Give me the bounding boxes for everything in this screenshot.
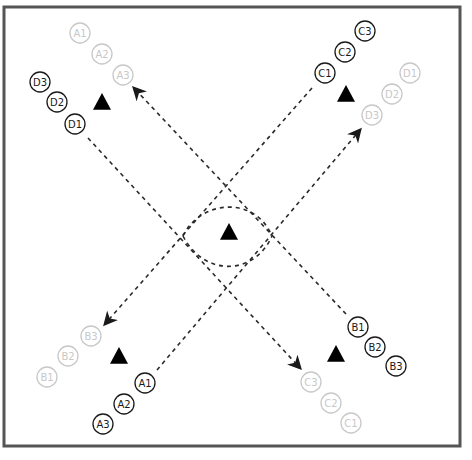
player-label: A2: [117, 399, 130, 410]
player-label: A3: [96, 419, 109, 430]
player-label: A2: [95, 49, 108, 60]
player-label: D1: [68, 119, 82, 130]
player-label: B2: [61, 351, 74, 362]
player-marker-a2-destination: A2: [92, 44, 112, 64]
players-layer: A1A2A3D3D2D1C3C2C1D1D2D3B3B2B1A1A2A3B1B2…: [30, 21, 420, 434]
player-label: B1: [351, 322, 364, 333]
player-marker-a1-start: A1: [135, 373, 155, 393]
run-a-to-top-left-arrow: [157, 130, 360, 370]
player-label: D3: [365, 110, 379, 121]
player-marker-c2-destination: C2: [321, 393, 341, 413]
cones-layer: [93, 85, 355, 364]
player-label: C1: [344, 418, 357, 429]
player-label: B2: [368, 342, 381, 353]
player-marker-d2-start: D2: [47, 92, 67, 112]
player-marker-c2-start: C2: [335, 42, 355, 62]
drill-diagram: A1A2A3D3D2D1C3C2C1D1D2D3B3B2B1A1A2A3B1B2…: [0, 0, 472, 460]
player-marker-c1-start: C1: [315, 63, 335, 83]
cone-top-left-triangle-icon: [93, 93, 111, 110]
player-marker-a2-start: A2: [114, 394, 134, 414]
player-label: A1: [73, 28, 86, 39]
player-marker-c1-destination: C1: [341, 413, 361, 433]
player-marker-a3-start: A3: [93, 414, 113, 434]
player-marker-d1-destination: D1: [400, 63, 420, 83]
player-label: A3: [116, 70, 129, 81]
player-marker-b1-start: B1: [348, 317, 368, 337]
player-label: C3: [358, 26, 371, 37]
player-label: C3: [304, 377, 317, 388]
diagram-canvas: A1A2A3D3D2D1C3C2C1D1D2D3B3B2B1A1A2A3B1B2…: [0, 0, 472, 460]
run-b-to-top-left-arrow: [134, 88, 346, 314]
player-label: B3: [389, 361, 402, 372]
player-marker-b3-start: B3: [386, 356, 406, 376]
player-label: D1: [403, 68, 417, 79]
player-label: B1: [40, 372, 53, 383]
player-label: D3: [33, 77, 47, 88]
run-d-to-bottom-right-arrow: [88, 138, 300, 368]
player-marker-d3-start: D3: [30, 72, 50, 92]
player-marker-b2-start: B2: [365, 337, 385, 357]
player-marker-d3-destination: D3: [362, 105, 382, 125]
player-marker-a3-destination: A3: [113, 65, 133, 85]
player-label: D2: [50, 97, 64, 108]
player-marker-c3-start: C3: [355, 21, 375, 41]
runs-layer: [88, 88, 360, 370]
player-label: C1: [318, 68, 331, 79]
player-label: A1: [138, 378, 151, 389]
player-label: D2: [385, 89, 399, 100]
cone-bottom-right-triangle-icon: [327, 345, 345, 362]
player-marker-b2-destination: B2: [58, 346, 78, 366]
player-label: B3: [84, 331, 97, 342]
cone-bottom-left-triangle-icon: [110, 347, 128, 364]
field-border: [4, 7, 460, 446]
run-c-to-bottom-left-arrow: [105, 88, 312, 324]
player-marker-d1-start: D1: [65, 114, 85, 134]
player-marker-d2-destination: D2: [382, 84, 402, 104]
player-label: C2: [338, 47, 351, 58]
player-marker-a1-destination: A1: [70, 23, 90, 43]
cone-top-right-triangle-icon: [337, 85, 355, 102]
center-loop-lower-arc: [183, 236, 272, 266]
player-label: C2: [324, 398, 337, 409]
player-marker-c3-destination: C3: [301, 372, 321, 392]
player-marker-b1-destination: B1: [37, 367, 57, 387]
cone-center-triangle-icon: [220, 223, 238, 240]
player-marker-b3-destination: B3: [81, 326, 101, 346]
